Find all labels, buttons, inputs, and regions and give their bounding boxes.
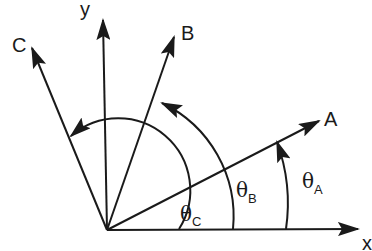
angle-arc-theta-b	[162, 103, 234, 229]
y-axis-label: y	[80, 0, 90, 20]
vector-b-label: B	[181, 22, 194, 44]
angle-arc-theta-a	[277, 142, 288, 229]
x-axis-label: x	[362, 232, 372, 251]
angle-arc-theta-c	[71, 118, 190, 229]
theta-c-label: θC	[180, 202, 201, 229]
x-axis	[107, 229, 358, 230]
theta-b-label: θB	[236, 178, 257, 206]
theta-a-label: θA	[302, 169, 323, 197]
vector-c	[32, 48, 107, 230]
vector-a-label: A	[324, 108, 338, 130]
vector-c-label: C	[12, 34, 26, 56]
y-axis	[103, 20, 107, 230]
vector-angle-diagram: x y A B C θA θB θC	[0, 0, 372, 251]
